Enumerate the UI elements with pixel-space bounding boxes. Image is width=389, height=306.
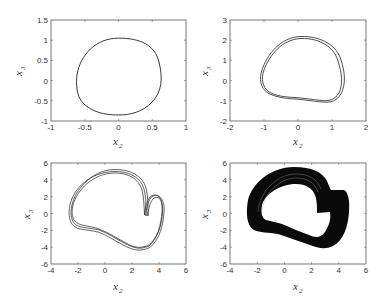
svg-text:-4: -4	[47, 266, 55, 275]
svg-text:1: 1	[184, 123, 189, 132]
panel-top-right: -2 -1 0 1 2 -2 -1 0 1 2 3 x2 x3	[198, 16, 369, 150]
svg-text:2: 2	[130, 266, 135, 275]
svg-text:4: 4	[337, 266, 342, 275]
x-tick-labels: -4 -2 0 2 4 6	[226, 266, 368, 275]
x-axis-label: x2	[112, 135, 123, 150]
svg-text:-2: -2	[220, 117, 228, 126]
svg-text:2: 2	[119, 142, 123, 150]
y-tick-labels: -1 -0.5 0 0.5 1 1.5	[34, 16, 48, 126]
svg-text:-1: -1	[41, 117, 49, 126]
svg-text:-2: -2	[254, 266, 262, 275]
svg-text:6: 6	[364, 266, 369, 275]
svg-text:3: 3	[205, 209, 213, 214]
svg-text:6: 6	[184, 266, 189, 275]
svg-text:x: x	[198, 214, 210, 220]
svg-text:2: 2	[44, 193, 49, 202]
svg-text:-4: -4	[220, 243, 228, 252]
svg-text:2: 2	[119, 287, 123, 295]
svg-text:-2: -2	[41, 226, 49, 235]
svg-text:-6: -6	[41, 260, 49, 269]
x-axis-label: x2	[112, 280, 123, 295]
svg-text:3: 3	[19, 66, 27, 71]
y-axis-label: x3	[198, 209, 213, 220]
svg-text:6: 6	[223, 159, 228, 168]
svg-text:-2: -2	[226, 123, 234, 132]
svg-text:4: 4	[44, 176, 49, 185]
svg-text:0: 0	[223, 210, 228, 219]
svg-text:4: 4	[223, 176, 228, 185]
x-tick-labels: -4 -2 0 2 4 6	[47, 266, 188, 275]
svg-text:1: 1	[223, 56, 228, 65]
svg-text:-1: -1	[47, 123, 55, 132]
panel-bottom-right: -4 -2 0 2 4 6 -6 -4 -2 0 2 4 6 x2 x3	[198, 159, 369, 295]
svg-text:0.5: 0.5	[37, 56, 49, 65]
svg-text:x: x	[112, 135, 118, 147]
svg-text:2: 2	[299, 142, 303, 150]
x-axis-label: x2	[292, 280, 303, 295]
svg-text:0: 0	[223, 77, 228, 86]
svg-text:-6: -6	[220, 260, 228, 269]
svg-text:4: 4	[157, 266, 162, 275]
svg-text:0: 0	[282, 266, 287, 275]
y-axis-label: x3	[20, 209, 35, 220]
svg-text:3: 3	[27, 209, 35, 214]
svg-text:0: 0	[116, 123, 121, 132]
svg-text:-4: -4	[41, 243, 49, 252]
figure: -1 -0.5 0 0.5 1 -1 -0.5 0 0.5 1 1.5 x2 x…	[0, 0, 389, 306]
y-tick-labels: -6 -4 -2 0 2 4 6	[41, 159, 49, 269]
svg-text:x: x	[112, 280, 118, 292]
panel-bottom-left: -4 -2 0 2 4 6 -6 -4 -2 0 2 4 6 x2 x3	[20, 159, 189, 295]
svg-text:-0.5: -0.5	[78, 123, 92, 132]
svg-text:1: 1	[330, 123, 335, 132]
panel-top-left: -1 -0.5 0 0.5 1 -1 -0.5 0 0.5 1 1.5 x2 x…	[12, 16, 189, 150]
svg-text:3: 3	[223, 16, 228, 25]
axes-box	[51, 20, 186, 121]
svg-text:1.5: 1.5	[37, 16, 49, 25]
svg-text:-2: -2	[220, 226, 228, 235]
svg-text:-1: -1	[260, 123, 268, 132]
svg-text:x: x	[292, 280, 298, 292]
y-axis-label: x3	[12, 66, 27, 77]
svg-text:-0.5: -0.5	[34, 97, 48, 106]
x-tick-labels: -2 -1 0 1 2	[226, 123, 368, 132]
svg-text:2: 2	[299, 287, 303, 295]
svg-text:2: 2	[223, 193, 228, 202]
y-axis-label: x3	[198, 66, 213, 77]
svg-text:-1: -1	[220, 97, 228, 106]
svg-text:2: 2	[223, 36, 228, 45]
svg-text:x: x	[198, 71, 210, 77]
svg-text:0: 0	[44, 210, 49, 219]
svg-text:6: 6	[44, 159, 49, 168]
y-tick-labels: -6 -4 -2 0 2 4 6	[220, 159, 228, 269]
svg-text:0: 0	[103, 266, 108, 275]
axes-box	[230, 20, 366, 121]
svg-text:x: x	[20, 214, 32, 220]
svg-text:2: 2	[309, 266, 314, 275]
svg-text:-2: -2	[74, 266, 82, 275]
y-tick-labels: -2 -1 0 1 2 3	[220, 16, 228, 126]
svg-text:x: x	[292, 135, 298, 147]
svg-text:0: 0	[44, 77, 49, 86]
x-axis-label: x2	[292, 135, 303, 150]
svg-text:3: 3	[205, 66, 213, 71]
svg-text:1: 1	[44, 36, 49, 45]
svg-text:-4: -4	[226, 266, 234, 275]
x-tick-labels: -1 -0.5 0 0.5 1	[47, 123, 188, 132]
svg-text:0: 0	[296, 123, 301, 132]
svg-text:0.5: 0.5	[147, 123, 159, 132]
svg-text:x: x	[12, 71, 24, 77]
svg-text:2: 2	[364, 123, 369, 132]
